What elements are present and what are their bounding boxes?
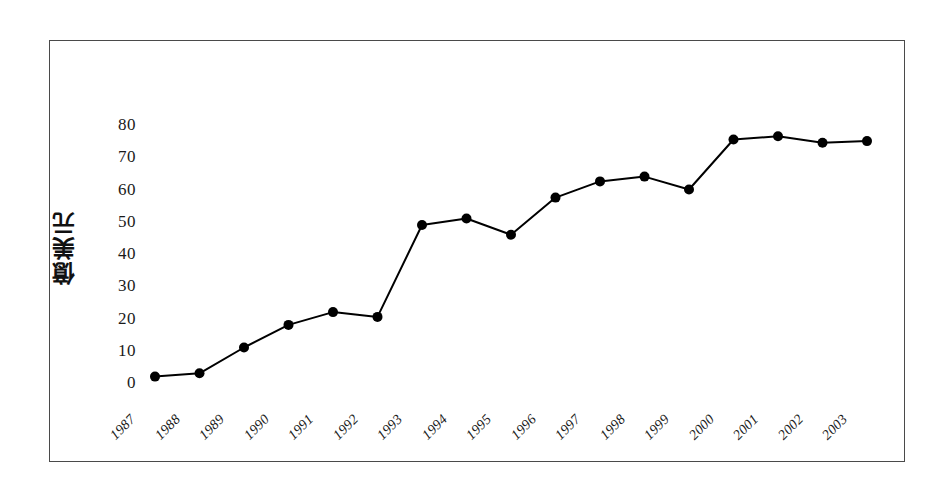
y-tick-label: 0 xyxy=(98,374,136,391)
y-tick-label: 70 xyxy=(98,148,136,165)
y-tick-label: 50 xyxy=(98,213,136,230)
y-tick-label: 60 xyxy=(98,181,136,198)
y-tick-label: 30 xyxy=(98,277,136,294)
chart-screenshot: 億美元 80706050403020100 198719881989199019… xyxy=(0,0,947,493)
y-tick-label: 20 xyxy=(98,310,136,327)
y-tick-label: 10 xyxy=(98,342,136,359)
y-tick-label: 40 xyxy=(98,245,136,262)
y-tick-label: 80 xyxy=(98,116,136,133)
y-axis-title: 億美元 xyxy=(54,210,77,285)
figure-frame xyxy=(49,40,905,462)
